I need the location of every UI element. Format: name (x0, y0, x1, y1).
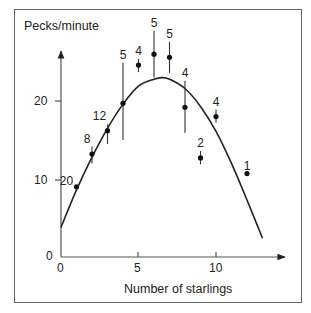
sample-size-label: 8 (84, 132, 91, 146)
point-marker (213, 114, 218, 119)
point-marker (167, 55, 172, 60)
data-point: 5 (151, 16, 158, 78)
sample-size-label: 20 (60, 174, 74, 188)
data-point: 4 (182, 66, 189, 133)
sample-size-label: 12 (93, 109, 107, 123)
point-marker (120, 101, 125, 106)
sample-size-label: 4 (213, 95, 220, 109)
x-axis (61, 252, 285, 257)
data-point: 4 (135, 44, 142, 72)
sample-size-label: 5 (120, 48, 127, 62)
sample-size-label: 2 (197, 136, 204, 150)
data-point: 5 (120, 48, 127, 140)
data-point: 5 (166, 27, 173, 73)
data-point: 20 (60, 174, 79, 190)
point-marker (198, 155, 203, 160)
sample-size-label: 4 (135, 44, 142, 58)
sample-size-label: 5 (151, 16, 158, 30)
sample-size-label: 1 (244, 159, 251, 173)
data-point: 8 (84, 132, 95, 163)
data-point: 2 (197, 136, 204, 164)
data-point: 4 (213, 95, 220, 123)
point-marker (151, 52, 156, 57)
fitted-curve (61, 78, 263, 239)
point-marker (136, 63, 141, 68)
y-axis (55, 51, 61, 257)
plot-area: 2081254554241 (0, 0, 311, 313)
data-point: 1 (244, 159, 251, 177)
point-marker (89, 151, 94, 156)
point-marker (74, 184, 79, 189)
point-marker (105, 128, 110, 133)
sample-size-label: 5 (166, 27, 173, 41)
sample-size-label: 4 (182, 66, 189, 80)
point-marker (182, 105, 187, 110)
